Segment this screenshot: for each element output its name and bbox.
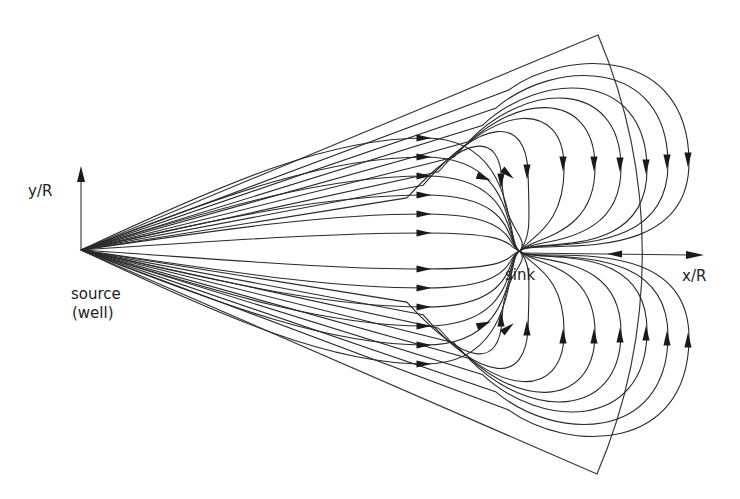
flow-arrow-icon <box>417 322 432 329</box>
flow-arrow-icon <box>559 157 566 172</box>
flow-arrow-icon <box>590 329 597 344</box>
streamline <box>81 250 522 354</box>
flow-arrow-icon <box>417 134 432 141</box>
streamline <box>81 108 595 251</box>
x-axis-label: x/R <box>682 267 706 285</box>
flow-arrow-icon <box>417 284 432 291</box>
flow-arrow-icon <box>476 321 491 330</box>
flow-arrow-icon <box>417 303 432 310</box>
streamline <box>81 250 520 326</box>
y-axis-label: y/R <box>28 182 52 200</box>
flow-arrow-icon <box>417 191 432 198</box>
streamline <box>81 250 647 412</box>
flow-arrow-icon <box>523 321 530 336</box>
flow-arrow-icon <box>497 174 504 189</box>
y-axis-arrow-icon <box>77 166 85 182</box>
flow-arrow-icon <box>590 157 597 172</box>
flow-arrow-icon <box>559 329 566 344</box>
flow-arrow-icon <box>642 160 649 175</box>
flow-arrow-icon <box>476 172 491 181</box>
flow-arrow-icon <box>663 155 670 170</box>
flow-arrow-icon <box>642 326 649 341</box>
flow-arrow-icon <box>417 360 432 367</box>
x-axis-arrow-icon <box>686 251 704 259</box>
y-axis <box>77 166 85 250</box>
flow-arrow-icon <box>616 158 623 173</box>
streamline-diagram: y/R x/R source (well) sink <box>0 0 740 499</box>
streamlines <box>81 64 689 437</box>
flow-arrow-icon <box>663 331 670 346</box>
flow-arrow-icon <box>684 333 691 348</box>
flow-arrowheads <box>417 134 692 367</box>
flow-arrow-icon <box>523 165 530 180</box>
source-label: source <box>71 285 121 303</box>
x-axis-inward-arrow-icon <box>607 251 622 258</box>
flow-arrow-icon <box>417 265 432 272</box>
streamline <box>81 76 668 251</box>
sink-label: sink <box>505 266 535 284</box>
source-sublabel: (well) <box>72 304 114 322</box>
flow-arrow-icon <box>417 229 432 236</box>
flow-arrow-icon <box>616 328 623 343</box>
flow-arrow-icon <box>417 210 432 217</box>
flow-arrow-icon <box>684 153 691 168</box>
